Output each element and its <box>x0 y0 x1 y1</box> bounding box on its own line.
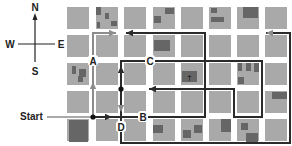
building <box>111 21 117 26</box>
city-block <box>96 63 118 85</box>
building <box>165 8 174 14</box>
building <box>78 76 83 82</box>
city-block <box>153 91 175 113</box>
junction-dot-icon <box>118 86 123 91</box>
point-d-label: D <box>117 122 124 133</box>
arrowhead-south-icon <box>118 105 124 112</box>
city-block <box>265 7 287 29</box>
arrowhead-west-icon <box>149 86 156 92</box>
building <box>272 92 287 99</box>
city-block <box>67 91 89 113</box>
church: † <box>187 73 191 82</box>
point-a-label: A <box>89 56 96 67</box>
compass: N S W E <box>5 2 64 77</box>
building <box>246 133 258 142</box>
building <box>238 63 242 71</box>
building <box>183 130 191 138</box>
city-block <box>209 91 231 113</box>
compass-south-label: S <box>32 66 39 77</box>
city-block <box>265 119 287 141</box>
building <box>69 120 88 142</box>
building <box>194 125 202 133</box>
church-icon: † <box>187 73 191 82</box>
city-block <box>153 63 175 85</box>
city-block <box>265 63 287 85</box>
city-block <box>265 35 287 57</box>
building <box>238 77 244 84</box>
city-block <box>124 7 146 29</box>
city-block <box>181 7 203 29</box>
city-block <box>96 119 118 141</box>
point-a: A <box>88 55 98 67</box>
city-block <box>181 91 203 113</box>
street-map: N S W E † Start A B C D <box>0 0 292 146</box>
city-block <box>67 35 89 57</box>
building <box>79 69 86 77</box>
building <box>246 63 251 71</box>
start-label: Start <box>20 111 43 122</box>
building <box>211 17 224 22</box>
city-block <box>124 35 146 57</box>
building <box>243 7 258 18</box>
arrowhead-north-icon <box>90 82 96 89</box>
building <box>96 7 101 15</box>
city-block <box>124 91 146 113</box>
building <box>153 125 163 133</box>
north-arrow-icon <box>33 13 38 20</box>
city-block <box>209 63 231 85</box>
building <box>221 119 231 132</box>
building <box>154 16 161 23</box>
city-block <box>209 35 231 57</box>
point-c: C <box>145 55 155 67</box>
building <box>241 123 248 130</box>
compass-west-label: W <box>5 39 15 50</box>
point-c-label: C <box>146 56 153 67</box>
point-b-label: B <box>139 112 146 123</box>
building <box>97 22 100 28</box>
city-block <box>237 35 259 57</box>
city-block <box>181 35 203 57</box>
city-block <box>96 35 118 57</box>
building <box>72 66 76 74</box>
compass-north-label: N <box>31 2 38 13</box>
point-b: B <box>138 111 148 123</box>
building <box>254 63 259 72</box>
building <box>211 8 217 13</box>
city-block <box>67 7 89 29</box>
building <box>154 40 170 51</box>
building <box>105 13 109 19</box>
city-block <box>124 63 146 85</box>
city-block <box>237 91 259 113</box>
point-d: D <box>116 121 126 133</box>
city-block <box>96 91 118 113</box>
arrowhead-north-icon <box>118 66 124 73</box>
junction-dot-icon <box>90 114 95 119</box>
compass-east-label: E <box>58 39 65 50</box>
